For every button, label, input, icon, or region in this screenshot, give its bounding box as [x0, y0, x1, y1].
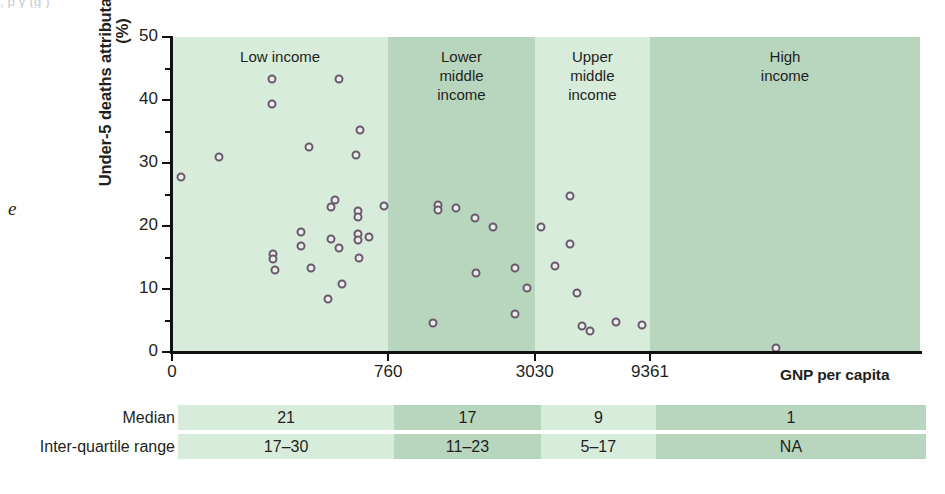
data-point — [268, 100, 277, 109]
table-row-label: Median — [0, 405, 175, 430]
y-tick — [162, 288, 171, 290]
table-cell: 9 — [541, 405, 656, 430]
y-tick-label: 50 — [118, 26, 158, 46]
table-cell: 11–23 — [394, 434, 541, 459]
table-row-label: Inter-quartile range — [0, 434, 175, 459]
data-point — [297, 242, 306, 251]
table-cell: 21 — [178, 405, 394, 430]
y-tick-label: 0 — [118, 341, 158, 361]
data-point — [565, 192, 574, 201]
clipped-caption-line: , p y (g ) — [0, 0, 945, 8]
data-point — [565, 239, 574, 248]
table-row: Median211791 — [0, 405, 945, 430]
data-point — [334, 244, 343, 253]
x-tick — [171, 352, 173, 361]
data-point — [304, 142, 313, 151]
data-point — [611, 317, 620, 326]
data-point — [429, 319, 438, 328]
income-band-1 — [172, 37, 388, 352]
table-cell: 5–17 — [541, 434, 656, 459]
y-tick-label: 30 — [118, 152, 158, 172]
data-point — [470, 214, 479, 223]
band-label-3: Uppermiddleincome — [522, 47, 662, 104]
data-point — [327, 235, 336, 244]
data-point — [337, 279, 346, 288]
table-cell: 17 — [394, 405, 541, 430]
data-point — [352, 151, 361, 160]
x-axis-line — [170, 351, 922, 354]
y-tick — [162, 162, 171, 164]
band-label-2: Lowermiddleincome — [391, 47, 531, 104]
y-tick — [162, 99, 171, 101]
y-minor-tick — [165, 68, 171, 70]
y-minor-tick — [165, 257, 171, 259]
data-point — [323, 295, 332, 304]
data-point — [572, 289, 581, 298]
data-point — [296, 227, 305, 236]
data-point — [268, 255, 277, 264]
x-tick-label: 0 — [127, 362, 217, 382]
data-point — [472, 269, 481, 278]
data-point — [355, 254, 364, 263]
y-minor-tick — [165, 320, 171, 322]
table-cell: 17–30 — [178, 434, 394, 459]
data-point — [215, 152, 224, 161]
x-tick — [649, 352, 651, 361]
data-point — [334, 74, 343, 83]
data-point — [331, 195, 340, 204]
data-point — [355, 126, 364, 135]
y-tick — [162, 225, 171, 227]
data-point — [488, 222, 497, 231]
band-label-4: Highincome — [715, 47, 855, 85]
y-minor-tick — [165, 131, 171, 133]
y-tick-label: 40 — [118, 89, 158, 109]
data-point — [307, 264, 316, 273]
y-minor-tick — [165, 194, 171, 196]
data-point — [365, 232, 374, 241]
clipped-caption-text: , p y (g ) — [0, 0, 50, 8]
data-point — [522, 284, 531, 293]
y-tick — [162, 351, 171, 353]
data-point — [637, 320, 646, 329]
x-tick-label: 760 — [343, 362, 433, 382]
table-row: Inter-quartile range17–3011–235–17NA — [0, 434, 945, 459]
y-tick — [162, 36, 171, 38]
data-point — [271, 266, 280, 275]
data-point — [586, 327, 595, 336]
data-point — [434, 205, 443, 214]
data-point — [379, 202, 388, 211]
margin-fragment: e — [8, 198, 16, 220]
data-point — [452, 203, 461, 212]
x-tick-label: 9361 — [605, 362, 695, 382]
data-point — [176, 172, 185, 181]
band-label-1: Low income — [210, 47, 350, 66]
data-point — [354, 236, 363, 245]
y-tick-label: 10 — [118, 278, 158, 298]
table-cell: NA — [656, 434, 926, 459]
plot-area: Low incomeLowermiddleincomeUppermiddlein… — [172, 37, 920, 352]
data-point — [268, 74, 277, 83]
figure-root: , p y (g ) e Under-5 deaths attributable… — [0, 0, 945, 494]
x-tick — [534, 352, 536, 361]
data-point — [550, 261, 559, 270]
x-axis-title: GNP per capita — [780, 366, 889, 384]
data-point — [536, 222, 545, 231]
x-tick — [387, 352, 389, 361]
y-tick-label: 20 — [118, 215, 158, 235]
data-point — [511, 263, 520, 272]
data-point — [510, 310, 519, 319]
table-cell: 1 — [656, 405, 926, 430]
data-point — [354, 213, 363, 222]
summary-table: Median211791Inter-quartile range17–3011–… — [0, 405, 945, 467]
x-tick-label: 3030 — [490, 362, 580, 382]
